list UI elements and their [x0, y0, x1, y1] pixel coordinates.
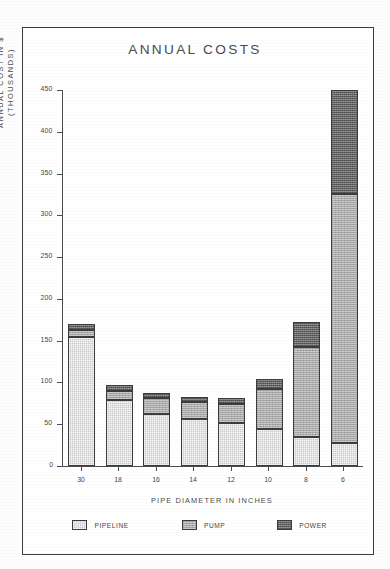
x-tick-mark	[156, 466, 157, 471]
bar-10-inch[interactable]	[256, 379, 283, 466]
x-tick-label: 14	[184, 475, 202, 484]
bar-6-inch[interactable]	[331, 90, 358, 466]
bar-segment-pipeline	[331, 443, 358, 466]
legend-label: PIPELINE	[94, 521, 128, 530]
pipeline-swatch	[72, 520, 87, 530]
y-tick-label: 0	[49, 460, 53, 469]
legend-label: POWER	[299, 521, 327, 530]
x-tick-label: 10	[259, 475, 277, 484]
x-tick-mark	[231, 466, 232, 471]
bar-segment-pump	[106, 391, 133, 400]
bar-16-inch[interactable]	[143, 392, 170, 466]
x-tick-label: 30	[72, 475, 90, 484]
x-tick-label: 16	[147, 475, 165, 484]
x-tick-mark	[81, 466, 82, 471]
y-tick-label: 450	[40, 84, 52, 93]
bar-segment-pipeline	[256, 429, 283, 466]
x-tick-label: 6	[334, 475, 352, 484]
x-tick-label: 12	[222, 475, 240, 484]
bar-segment-pump	[143, 398, 170, 415]
y-tick-label: 150	[40, 335, 52, 344]
legend-item-pipeline[interactable]: PIPELINE	[72, 520, 130, 530]
y-tick-label: 50	[45, 418, 53, 427]
bar-segment-pump	[293, 347, 320, 436]
chart-legend: PIPELINEPUMPPOWER	[62, 520, 362, 540]
bar-8-inch[interactable]	[293, 322, 320, 466]
bar-segment-power	[218, 398, 245, 405]
bar-segment-pipeline	[218, 423, 245, 466]
y-tick-label: 300	[40, 209, 52, 218]
legend-item-pump[interactable]: PUMP	[182, 520, 226, 530]
y-tick-label: 350	[40, 168, 52, 177]
x-tick-mark	[343, 466, 344, 471]
bar-segment-power	[293, 322, 320, 347]
y-tick-label: 400	[40, 126, 52, 135]
bar-segment-power	[106, 385, 133, 391]
bar-segment-pump	[181, 402, 208, 420]
bar-segment-pump	[68, 330, 95, 337]
y-tick-label: 100	[40, 376, 52, 385]
bar-segment-pump	[218, 404, 245, 422]
x-tick-mark	[118, 466, 119, 471]
bar-segment-pipeline	[181, 419, 208, 466]
x-axis-title: PIPE DIAMETER IN INCHES	[62, 496, 362, 505]
x-tick-mark	[268, 466, 269, 471]
y-tick-label: 250	[40, 251, 52, 260]
bar-segment-pipeline	[106, 400, 133, 466]
scanned-chart-page: ANNUAL COSTS ANNUAL COST IN $ (THOUSANDS…	[0, 0, 390, 569]
bar-segment-power	[68, 324, 95, 330]
y-tick-label: 200	[40, 293, 52, 302]
x-tick-mark	[306, 466, 307, 471]
pump-swatch	[182, 520, 197, 530]
chart-title: ANNUAL COSTS	[0, 42, 390, 57]
bar-30-inch[interactable]	[68, 324, 95, 466]
legend-label: PUMP	[204, 521, 225, 530]
bar-segment-pipeline	[293, 437, 320, 466]
bar-segment-power	[181, 397, 208, 402]
power-swatch	[277, 520, 292, 530]
x-tick-label: 8	[297, 475, 315, 484]
x-axis-ticks: 30181614121086	[62, 466, 362, 496]
bar-segment-power	[256, 379, 283, 389]
bar-18-inch[interactable]	[106, 385, 133, 466]
y-axis-ticks: 050100150200250300350400450	[0, 90, 62, 466]
bar-12-inch[interactable]	[218, 398, 245, 467]
bar-14-inch[interactable]	[181, 397, 208, 466]
x-tick-label: 18	[109, 475, 127, 484]
bar-segment-pump	[331, 194, 358, 443]
bar-segment-power	[331, 90, 358, 194]
bar-segment-pump	[256, 389, 283, 429]
bar-segment-power	[143, 393, 170, 398]
x-tick-mark	[193, 466, 194, 471]
bar-segment-pipeline	[143, 414, 170, 466]
bar-segment-pipeline	[68, 337, 95, 467]
legend-item-power[interactable]: POWER	[277, 520, 328, 530]
plot-area	[62, 90, 363, 467]
